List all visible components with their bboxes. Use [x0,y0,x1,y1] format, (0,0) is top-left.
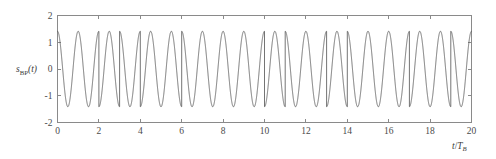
bpsk-signal-plot: 02468101214161820-2-1012sBP(t)t/TB [0,0,496,159]
x-tick-label: 6 [179,126,184,136]
x-tick-label: 4 [138,126,143,136]
y-tick-label: 2 [48,11,53,21]
y-axis-label: sBP(t) [16,64,37,75]
y-tick-label: 1 [48,38,53,48]
y-tick-label: -2 [45,118,53,128]
x-tick-label: 12 [301,126,311,136]
svg-text:sBP(t): sBP(t) [16,64,37,75]
x-tick-label: 18 [425,126,435,136]
x-axis-label: t/TB [452,141,467,152]
y-tick-label: 0 [48,64,53,74]
x-tick-label: 20 [467,126,477,136]
chart-figure: 02468101214161820-2-1012sBP(t)t/TB [0,0,496,159]
x-tick-label: 8 [221,126,226,136]
signal-curve [58,31,472,106]
x-tick-label: 2 [97,126,102,136]
svg-text:t/TB: t/TB [452,141,467,152]
x-tick-label: 14 [343,126,353,136]
x-tick-label: 10 [260,126,270,136]
x-tick-label: 0 [55,126,60,136]
x-tick-label: 16 [384,126,394,136]
y-tick-label: -1 [45,91,53,101]
